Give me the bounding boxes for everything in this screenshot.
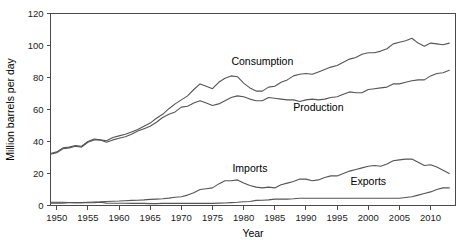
oil-line-chart: 020406080100120 195019551960196519701975… bbox=[0, 0, 467, 240]
y-tick-label: 120 bbox=[28, 8, 44, 19]
x-tick-label: 1950 bbox=[46, 212, 67, 223]
y-tick-label: 0 bbox=[38, 200, 43, 211]
x-axis-ticks: 1950195519601965197019751980198519901995… bbox=[46, 206, 441, 223]
plot-frame bbox=[51, 14, 456, 206]
x-tick-label: 2000 bbox=[358, 212, 379, 223]
x-tick-label: 1955 bbox=[77, 212, 98, 223]
x-tick-label: 1985 bbox=[264, 212, 285, 223]
x-tick-label: 2005 bbox=[389, 212, 410, 223]
series-label-exports: Exports bbox=[350, 175, 386, 187]
y-tick-label: 60 bbox=[33, 104, 44, 115]
y-tick-label: 40 bbox=[33, 136, 44, 147]
chart-container: 020406080100120 195019551960196519701975… bbox=[0, 0, 467, 240]
y-axis-title: Million barrels per day bbox=[4, 57, 16, 160]
y-tick-label: 20 bbox=[33, 168, 44, 179]
x-axis-title: Year bbox=[242, 227, 264, 239]
y-axis-ticks: 020406080100120 bbox=[28, 8, 51, 211]
y-tick-label: 100 bbox=[28, 40, 44, 51]
axis-frame bbox=[51, 14, 456, 206]
series-label-imports: Imports bbox=[232, 162, 267, 174]
x-tick-label: 1995 bbox=[327, 212, 348, 223]
series-label-consumption: Consumption bbox=[231, 55, 293, 67]
series-annotations: ConsumptionProductionImportsExports bbox=[231, 55, 386, 187]
series-line-production bbox=[51, 70, 450, 154]
x-tick-label: 1990 bbox=[295, 212, 316, 223]
x-tick-label: 1975 bbox=[202, 212, 223, 223]
x-tick-label: 1980 bbox=[233, 212, 254, 223]
x-tick-label: 1970 bbox=[171, 212, 192, 223]
x-tick-label: 1965 bbox=[140, 212, 161, 223]
x-tick-label: 1960 bbox=[108, 212, 129, 223]
y-tick-label: 80 bbox=[33, 72, 44, 83]
series-label-production: Production bbox=[293, 101, 343, 113]
x-tick-label: 2010 bbox=[420, 212, 441, 223]
